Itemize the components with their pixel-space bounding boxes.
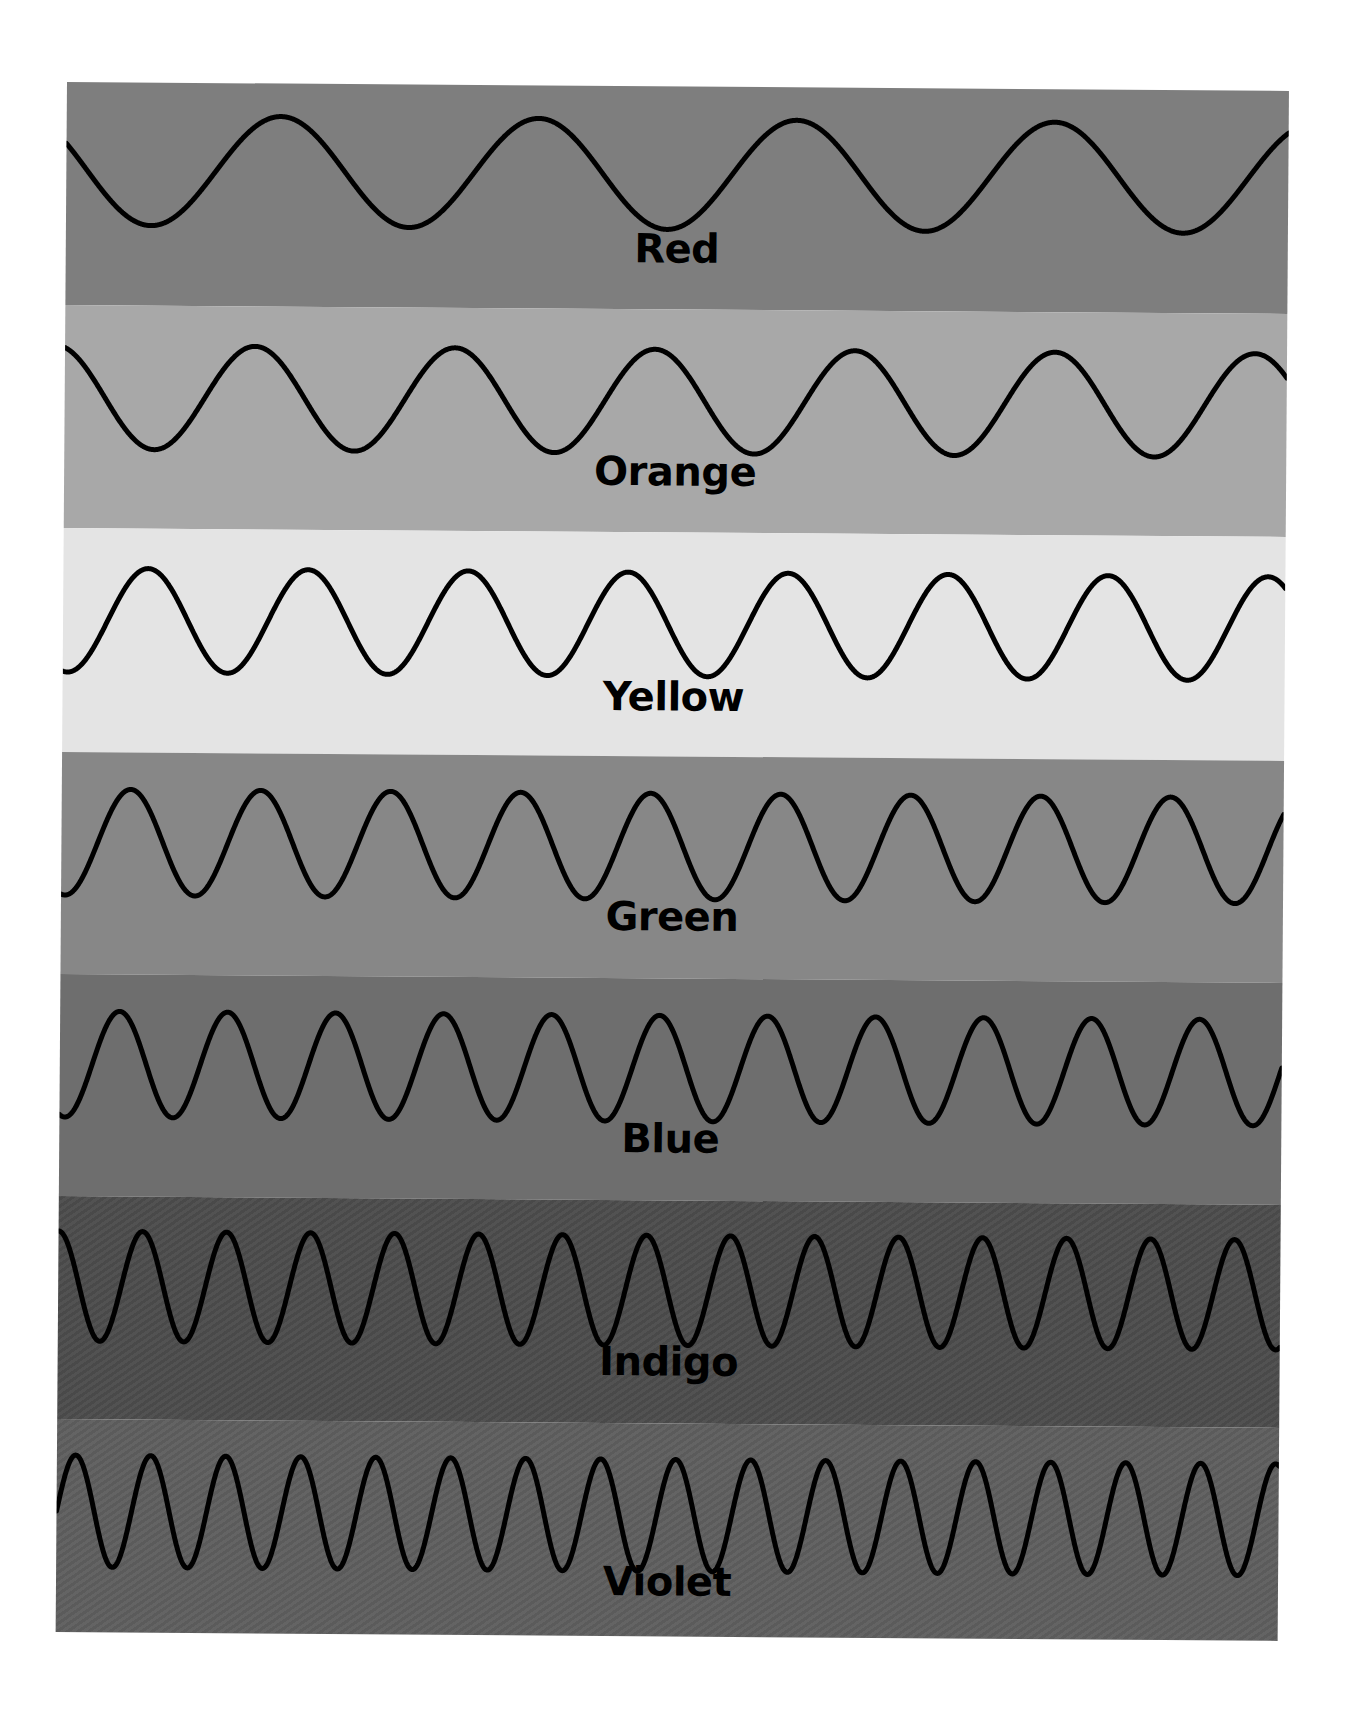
sine-wave-green (60, 752, 1284, 983)
band-blue: Blue (59, 974, 1283, 1205)
band-indigo: Indigo (57, 1196, 1281, 1428)
sine-wave-blue (59, 974, 1283, 1205)
sine-wave-red (65, 82, 1289, 314)
band-red: Red (65, 82, 1289, 314)
band-green: Green (60, 752, 1284, 983)
band-violet: Violet (56, 1419, 1280, 1641)
sine-wave-orange (64, 305, 1288, 537)
sine-wave-yellow (62, 528, 1286, 761)
sine-wave-indigo (57, 1196, 1281, 1428)
band-orange: Orange (64, 305, 1288, 537)
wavelength-spectrum-figure: RedOrangeYellowGreenBlueIndigoViolet (56, 82, 1289, 1641)
sine-wave-violet (56, 1419, 1280, 1641)
band-yellow: Yellow (62, 528, 1286, 761)
